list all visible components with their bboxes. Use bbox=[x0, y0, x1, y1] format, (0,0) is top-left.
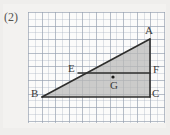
point-label-a: A bbox=[145, 25, 153, 36]
page-edge-top bbox=[0, 0, 170, 4]
point-label-g: G bbox=[110, 80, 118, 91]
page-edge-left bbox=[0, 0, 3, 135]
point-label-f: F bbox=[153, 64, 159, 75]
point-label-b: B bbox=[31, 88, 38, 99]
page-edge-right bbox=[166, 0, 170, 135]
figure-container: (2) A B C E F G bbox=[0, 0, 170, 135]
page-edge-bottom bbox=[0, 128, 170, 135]
point-label-c: C bbox=[152, 88, 159, 99]
point-label-e: E bbox=[68, 63, 75, 74]
geometry-figure bbox=[0, 0, 170, 135]
